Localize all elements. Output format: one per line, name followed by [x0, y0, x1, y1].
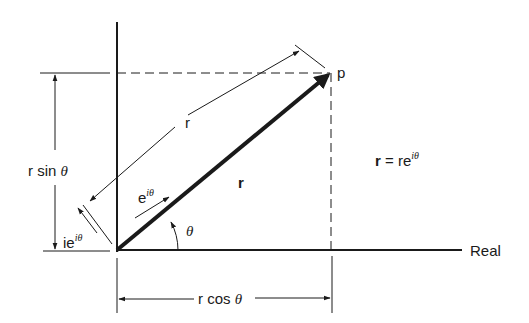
rsin-label: r sin θ — [28, 162, 69, 179]
angle-theta-label: θ — [186, 223, 194, 239]
real-axis-label: Real — [470, 242, 501, 259]
r-dimension-line-lower — [90, 127, 175, 201]
r-dimension-label: r — [185, 114, 190, 131]
vector-r-label: r — [238, 174, 244, 191]
r-dimension-line-upper — [188, 51, 299, 115]
perp-unit-vector-label: ieiθ — [63, 232, 82, 251]
rcos-label: r cos θ — [198, 290, 243, 307]
angle-arc — [171, 222, 178, 250]
equation-label: r = reiθ — [375, 150, 419, 169]
r-extension-tick-top — [295, 45, 325, 68]
r-extension-tick-bottom — [83, 205, 112, 244]
vector-r — [117, 75, 328, 250]
complex-plane-diagram: Real r p r eiθ ieiθ θ r sin θ r cos θ r … — [0, 0, 529, 323]
point-p-label: p — [337, 64, 345, 81]
unit-vector-label: eiθ — [138, 187, 154, 206]
